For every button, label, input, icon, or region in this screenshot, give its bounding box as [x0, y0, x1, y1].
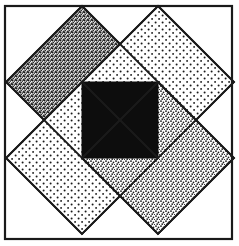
quilt-block-illustration: [0, 0, 239, 246]
quilt-figure: [0, 0, 239, 246]
